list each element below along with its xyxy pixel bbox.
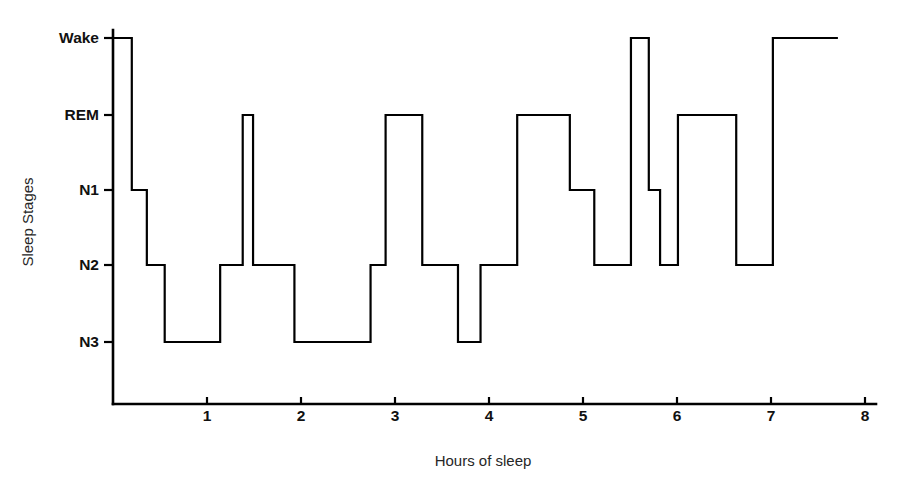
x-axis-title: Hours of sleep <box>435 452 532 469</box>
x-tick-label-3: 3 <box>391 407 400 424</box>
x-tick-label-4: 4 <box>485 407 494 424</box>
hypnogram-plot: WakeREMN1N2N3 12345678 Hours of sleep Sl… <box>0 0 915 492</box>
x-tick-label-7: 7 <box>767 407 776 424</box>
axes-group <box>113 30 876 404</box>
y-tick-label-wake: Wake <box>59 29 99 46</box>
y-tick-label-rem: REM <box>65 106 99 123</box>
x-tick-group: 12345678 <box>203 397 870 424</box>
y-tick-label-n3: N3 <box>79 333 99 350</box>
x-tick-label-5: 5 <box>579 407 588 424</box>
x-tick-label-1: 1 <box>203 407 212 424</box>
x-tick-label-2: 2 <box>297 407 306 424</box>
hypnogram-trace <box>113 38 837 342</box>
x-tick-label-8: 8 <box>861 407 870 424</box>
hypnogram-figure: WakeREMN1N2N3 12345678 Hours of sleep Sl… <box>0 0 915 492</box>
y-tick-group: WakeREMN1N2N3 <box>59 29 113 350</box>
y-tick-label-n2: N2 <box>79 256 99 273</box>
x-tick-label-6: 6 <box>673 407 682 424</box>
y-tick-label-n1: N1 <box>79 181 99 198</box>
y-axis-title: Sleep Stages <box>19 177 36 266</box>
